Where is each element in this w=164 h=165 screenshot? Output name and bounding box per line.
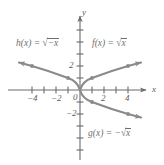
x-tick-label--4: −4 bbox=[27, 94, 38, 103]
curve-f bbox=[80, 63, 141, 91]
y-axis-name: y bbox=[82, 8, 86, 17]
function-label-h: h(x) = √−x bbox=[16, 38, 59, 49]
function-label-h-radicand: x bbox=[54, 38, 58, 48]
curve-g bbox=[80, 90, 141, 118]
function-label-h-name: h(x) bbox=[16, 38, 31, 48]
function-label-g-equals: = bbox=[106, 128, 112, 138]
function-label-g-radicand: x bbox=[126, 128, 130, 138]
function-label-f-name: f(x) bbox=[92, 38, 105, 48]
x-tick-label-2: 2 bbox=[101, 94, 106, 103]
y-tick-label-2: 2 bbox=[69, 61, 74, 70]
function-label-f: f(x) = √x bbox=[92, 38, 127, 49]
origin-label: 0 bbox=[73, 93, 78, 102]
plot-canvas bbox=[0, 0, 164, 165]
data-point-marker bbox=[126, 64, 130, 68]
x-tick-label-4: 4 bbox=[125, 94, 130, 103]
data-point-marker bbox=[90, 76, 94, 80]
data-point-marker bbox=[30, 64, 34, 68]
x-tick-label--2: −2 bbox=[51, 94, 62, 103]
function-label-f-equals: = bbox=[108, 38, 114, 48]
x-axis-name: x bbox=[152, 85, 156, 94]
function-label-f-radicand: x bbox=[122, 38, 126, 48]
function-label-h-equals: = bbox=[34, 38, 40, 48]
square-root-function-graph: −4 −2 0 2 4 2 −2 x y h(x) = √−x f(x) = √… bbox=[0, 0, 164, 165]
data-point-marker bbox=[66, 76, 70, 80]
function-label-g-name: g(x) bbox=[88, 128, 103, 138]
data-point-marker bbox=[126, 112, 130, 116]
function-label-g: g(x) = −√x bbox=[88, 128, 131, 139]
y-tick-label--2: −2 bbox=[66, 109, 77, 118]
data-point-marker bbox=[90, 100, 94, 104]
